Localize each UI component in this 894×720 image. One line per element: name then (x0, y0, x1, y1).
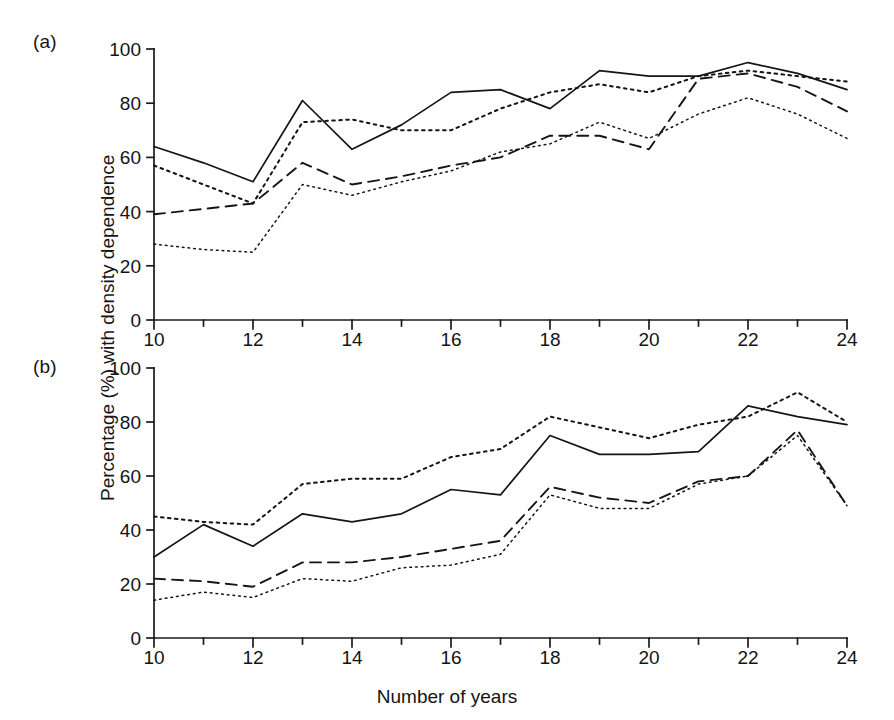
data-series-solid (154, 406, 847, 557)
y-tick-label: 80 (120, 93, 141, 114)
figure-container: (a) (b) Percentage (%) with density depe… (0, 0, 894, 720)
x-tick-label: 10 (143, 647, 164, 668)
data-series-solid (154, 63, 847, 182)
data-series-dotted-fine (154, 436, 847, 601)
x-tick-label: 18 (539, 647, 560, 668)
x-tick-label: 14 (341, 647, 363, 668)
y-tick-label: 40 (120, 520, 141, 541)
x-tick-label: 16 (440, 647, 461, 668)
data-series-dashed (154, 73, 847, 214)
y-tick-label: 100 (109, 39, 141, 60)
x-tick-label: 22 (737, 647, 758, 668)
x-tick-label: 20 (638, 647, 659, 668)
y-tick-label: 20 (120, 574, 141, 595)
panel-a-plot: 0204060801001012141618202224 (0, 0, 894, 360)
y-tick-label: 100 (109, 358, 141, 379)
x-tick-label: 12 (242, 647, 263, 668)
x-tick-label: 24 (836, 647, 858, 668)
data-series-dotted-dense (154, 71, 847, 204)
y-tick-label: 40 (120, 202, 141, 223)
y-tick-label: 80 (120, 412, 141, 433)
y-tick-label: 20 (120, 256, 141, 277)
x-axis-label: Number of years (0, 686, 894, 708)
y-tick-label: 60 (120, 466, 141, 487)
data-series-dashed (154, 430, 847, 587)
y-tick-label: 60 (120, 147, 141, 168)
panel-b-plot: 0204060801001012141618202224 (0, 320, 894, 680)
y-tick-label: 0 (130, 628, 141, 649)
data-series-dotted-dense (154, 392, 847, 524)
